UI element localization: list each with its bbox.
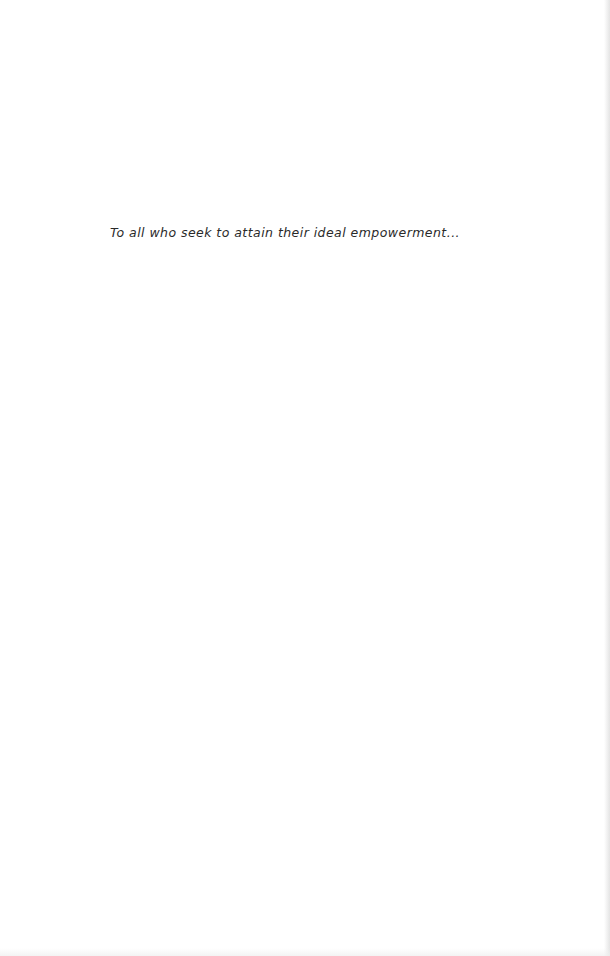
- document-page: To all who seek to attain their ideal em…: [0, 0, 610, 956]
- scan-edge-shadow-right: [604, 0, 610, 956]
- scan-edge-shadow-bottom: [0, 948, 610, 956]
- dedication-text: To all who seek to attain their ideal em…: [110, 225, 460, 240]
